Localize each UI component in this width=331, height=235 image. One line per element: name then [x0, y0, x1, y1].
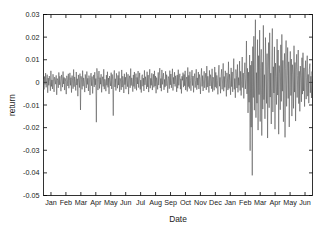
x-tick-label: Aug	[149, 198, 162, 207]
x-tick-label: Apr	[90, 198, 102, 207]
x-tick-label: Mar	[75, 198, 88, 207]
return-time-series-chart: 0.030.020.010-0.01-0.02-0.03-0.04-0.05 J…	[0, 0, 331, 235]
y-tick-label: 0.03	[26, 10, 40, 19]
figure-canvas: 0.030.020.010-0.01-0.02-0.03-0.04-0.05 J…	[0, 0, 331, 235]
x-tick-label: Jul	[136, 198, 146, 207]
x-tick-label: May	[104, 198, 118, 207]
x-tick-label: Sep	[164, 198, 177, 207]
x-tick-label: Apr	[270, 198, 282, 207]
x-axis-title: Date	[169, 214, 187, 224]
y-tick-label: -0.05	[23, 191, 39, 200]
y-tick-label: 0	[36, 78, 40, 87]
y-tick-label: -0.04	[23, 168, 39, 177]
x-tick-label: Feb	[239, 198, 251, 207]
y-tick-label: 0.01	[26, 55, 40, 64]
x-tick-label: Oct	[180, 198, 191, 207]
x-tick-label: Jun	[299, 198, 311, 207]
y-tick-label: -0.01	[23, 101, 39, 110]
x-tick-label: Nov	[194, 198, 207, 207]
x-tick-label: Dec	[209, 198, 222, 207]
y-tick-label: 0.02	[26, 33, 40, 42]
x-tick-label: Jan	[45, 198, 57, 207]
x-tick-label: Feb	[60, 198, 72, 207]
x-tick-label: Mar	[254, 198, 267, 207]
x-tick-label: Jan	[225, 198, 237, 207]
x-tick-label: Jun	[120, 198, 132, 207]
y-tick-label: -0.03	[23, 146, 39, 155]
y-tick-label: -0.02	[23, 123, 39, 132]
y-axis-title: return	[7, 94, 17, 116]
x-tick-label: May	[283, 198, 297, 207]
